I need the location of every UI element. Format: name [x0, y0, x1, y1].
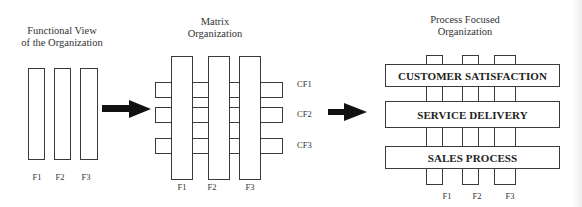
process-label: SERVICE DELIVERY — [417, 109, 528, 121]
arrow-right-icon — [101, 99, 153, 119]
function-label: F1 — [27, 172, 47, 182]
function-column-f2 — [54, 68, 71, 160]
matrix-title: Matrix Organization — [175, 16, 255, 40]
process-label: SALES PROCESS — [428, 152, 518, 164]
cross-function-label: CF1 — [297, 79, 312, 89]
process-focused-title: Process Focused Organization — [420, 14, 510, 38]
matrix-title-line1: Matrix — [175, 16, 255, 28]
matrix-function-column-f1 — [171, 56, 193, 180]
matrix-title-line2: Organization — [175, 28, 255, 40]
functional-view-title: Functional View of the Organization — [2, 25, 122, 49]
function-label: F2 — [202, 182, 222, 192]
cross-function-label: CF2 — [297, 109, 312, 119]
process-bar-sales-process: SALES PROCESS — [385, 146, 560, 169]
matrix-function-column-f2 — [208, 56, 230, 180]
function-column-f3 — [80, 68, 98, 160]
function-label: F2 — [467, 191, 487, 201]
function-column-f1 — [28, 68, 45, 160]
page-edge-shadow — [572, 0, 582, 207]
process-label: CUSTOMER SATISFACTION — [398, 70, 547, 82]
matrix-function-column-f3 — [239, 56, 261, 180]
process-title-line2: Organization — [420, 26, 510, 38]
function-label: F3 — [76, 172, 96, 182]
arrow-right-icon — [328, 103, 368, 121]
function-label: F3 — [500, 191, 520, 201]
function-label: F1 — [172, 182, 192, 192]
process-bar-customer-satisfaction: CUSTOMER SATISFACTION — [385, 64, 560, 87]
functional-title-line1: Functional View — [2, 25, 122, 37]
process-title-line1: Process Focused — [420, 14, 510, 26]
function-label: F1 — [437, 191, 457, 201]
cross-function-label: CF3 — [297, 140, 312, 150]
process-bar-service-delivery: SERVICE DELIVERY — [385, 101, 560, 128]
function-label: F3 — [240, 182, 260, 192]
function-label: F2 — [50, 172, 70, 182]
functional-title-line2: of the Organization — [2, 37, 122, 49]
